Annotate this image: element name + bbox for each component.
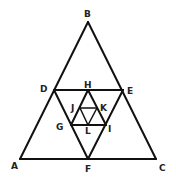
- segment-jl: [80, 108, 88, 125]
- label-j: J: [70, 103, 74, 113]
- label-d: D: [40, 84, 47, 94]
- label-l: L: [85, 126, 91, 136]
- label-c: C: [159, 163, 166, 173]
- label-h: H: [84, 80, 92, 90]
- label-g: G: [56, 122, 63, 132]
- label-f: F: [85, 164, 91, 174]
- label-b: B: [84, 9, 91, 19]
- label-i: I: [108, 124, 111, 134]
- segment-kl: [88, 108, 97, 125]
- label-k: K: [100, 103, 108, 113]
- label-a: A: [11, 161, 18, 171]
- triangle-diagram: A B C D E F H G I J K L: [0, 0, 176, 181]
- label-e: E: [127, 86, 133, 96]
